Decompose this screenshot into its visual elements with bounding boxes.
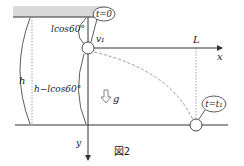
physics-diagram: t=0 t=t₁ h lcos60° h−lcos60° v₁ L x y g …: [0, 0, 244, 166]
t1-bubble: t=t₁: [199, 96, 226, 119]
ceiling: [13, 6, 106, 17]
L-label: L: [192, 34, 200, 45]
t0-label: t=0: [96, 9, 113, 19]
gravity-arrow-icon: [101, 90, 111, 103]
lcos60-label: lcos60°: [51, 24, 85, 34]
ball-start: [82, 42, 94, 54]
y-label: y: [75, 138, 82, 148]
ball-landing: [190, 119, 202, 131]
g-label: g: [113, 93, 119, 104]
x-label: x: [217, 51, 223, 62]
v1-label: v₁: [96, 34, 105, 44]
figure-caption: 図2: [114, 146, 130, 157]
h-arc: [20, 18, 30, 124]
trajectory-dashed: [94, 52, 193, 120]
h-minus-lcos60-label: h−lcos60°: [34, 84, 81, 94]
t1-label: t=t₁: [205, 99, 222, 109]
h-label: h: [19, 75, 25, 86]
